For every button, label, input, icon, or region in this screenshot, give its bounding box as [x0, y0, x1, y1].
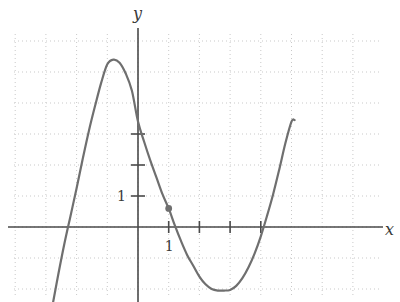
cubic-function-plot: [0, 0, 400, 302]
x-axis-tick-label-1: 1: [165, 239, 174, 253]
function-curve: [53, 60, 295, 302]
chart-figure: y x 1 1: [0, 0, 400, 302]
y-axis-tick-label-1: 1: [117, 189, 126, 203]
x-axis-label: x: [385, 222, 394, 238]
marked-point: [165, 205, 172, 212]
y-axis-label: y: [133, 6, 142, 22]
grid-lines-horizontal: [14, 41, 382, 289]
